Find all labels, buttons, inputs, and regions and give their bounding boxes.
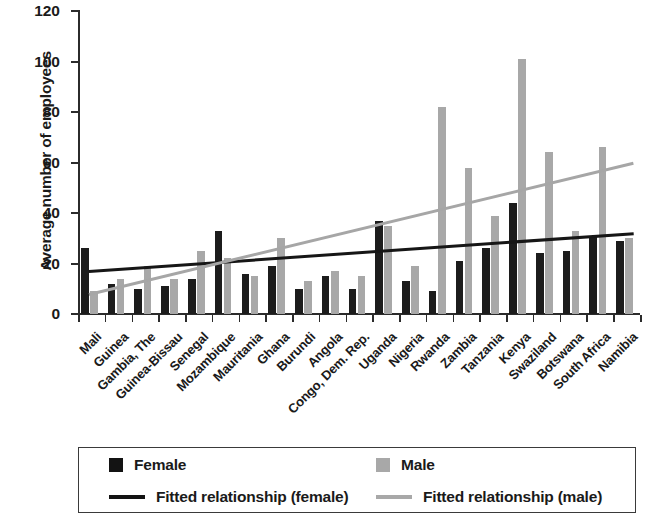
y-axis-tick: 100	[71, 61, 78, 63]
x-axis-tick	[613, 315, 615, 322]
bar-male	[411, 266, 419, 314]
bar-female	[536, 253, 544, 314]
legend-row-series: Female Male	[79, 448, 635, 481]
y-axis-tick: 40	[71, 212, 78, 214]
bar-female	[268, 266, 276, 314]
y-axis-tick: 120	[71, 10, 78, 12]
y-axis-tick-label: 60	[43, 154, 60, 172]
legend-label-fitted-female: Fitted relationship (female)	[156, 488, 348, 506]
bar-male	[545, 152, 553, 314]
bar-female	[215, 231, 223, 314]
legend-row-trendlines: Fitted relationship (female) Fitted rela…	[79, 480, 635, 513]
bar-male	[572, 231, 580, 314]
bar-male	[625, 238, 633, 314]
x-axis-tick	[292, 315, 294, 322]
bar-female	[295, 289, 303, 314]
fitted-female-line-icon	[109, 495, 145, 499]
x-axis-tick	[399, 315, 401, 322]
bar-female	[589, 236, 597, 314]
y-axis-tick: 0	[71, 313, 78, 315]
x-axis-tick	[319, 315, 321, 322]
bar-chart: Average number of employees 020406080100…	[0, 0, 647, 523]
y-axis-line	[78, 10, 80, 315]
y-axis-tick-label: 20	[43, 255, 60, 273]
bar-male	[331, 271, 339, 314]
bar-female	[161, 286, 169, 314]
bar-male	[224, 258, 232, 314]
x-axis-tick	[372, 315, 374, 322]
legend-label-fitted-male: Fitted relationship (male)	[423, 488, 602, 506]
fitted-male-line-icon	[376, 495, 412, 499]
bar-male	[197, 251, 205, 314]
x-axis-tick	[185, 315, 187, 322]
x-axis-tick	[212, 315, 214, 322]
bar-female	[242, 274, 250, 314]
x-axis-tick	[105, 315, 107, 322]
legend-label-male: Male	[401, 456, 435, 474]
y-axis-tick: 60	[71, 162, 78, 164]
y-axis-tick-label: 40	[43, 204, 60, 222]
x-axis-tick	[640, 315, 642, 322]
x-axis-tick	[506, 315, 508, 322]
x-axis-tick	[239, 315, 241, 322]
x-axis-tick	[346, 315, 348, 322]
bar-female	[134, 289, 142, 314]
x-axis-tick	[265, 315, 267, 322]
female-swatch-icon	[109, 458, 123, 472]
bar-male	[518, 59, 526, 314]
y-axis-tick: 20	[71, 263, 78, 265]
x-axis-tick	[586, 315, 588, 322]
bar-female	[456, 261, 464, 314]
x-axis-tick	[533, 315, 535, 322]
x-axis-tick	[560, 315, 562, 322]
bar-female	[188, 279, 196, 314]
y-axis-tick-label: 80	[43, 103, 60, 121]
bar-male	[144, 266, 152, 314]
bar-female	[375, 221, 383, 314]
legend-item-female: Female	[79, 448, 362, 481]
bar-male	[491, 216, 499, 314]
bar-male	[304, 281, 312, 314]
plot-area: 020406080100120	[78, 10, 640, 314]
bar-male	[358, 276, 366, 314]
x-axis-tick	[78, 315, 80, 322]
x-axis-tick	[158, 315, 160, 322]
chart-legend: Female Male Fitted relationship (female)…	[78, 447, 636, 513]
bar-male	[170, 279, 178, 314]
bar-female	[563, 251, 571, 314]
bar-male	[384, 226, 392, 314]
bar-female	[482, 248, 490, 314]
bar-female	[509, 203, 517, 314]
bar-female	[616, 241, 624, 314]
bar-female	[349, 289, 357, 314]
x-axis-tick	[479, 315, 481, 322]
y-axis-tick-label: 120	[34, 2, 60, 20]
legend-item-male: Male	[362, 448, 635, 481]
bar-female	[429, 291, 437, 314]
x-axis-tick	[426, 315, 428, 322]
legend-label-female: Female	[134, 456, 186, 474]
legend-item-fitted-male: Fitted relationship (male)	[362, 480, 635, 513]
bar-male	[465, 168, 473, 314]
bar-female	[81, 248, 89, 314]
y-axis-tick-label: 0	[51, 305, 60, 323]
x-axis-tick	[453, 315, 455, 322]
x-axis-tick	[132, 315, 134, 322]
y-axis-tick: 80	[71, 111, 78, 113]
bar-female	[322, 276, 330, 314]
bar-female	[402, 281, 410, 314]
bar-male	[251, 276, 259, 314]
male-swatch-icon	[376, 458, 390, 472]
legend-item-fitted-female: Fitted relationship (female)	[79, 480, 362, 513]
y-axis-tick-label: 100	[34, 53, 60, 71]
